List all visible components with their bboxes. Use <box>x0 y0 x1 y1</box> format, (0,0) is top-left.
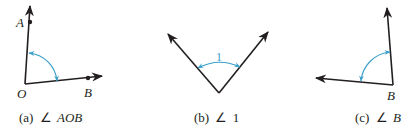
angle-symbol-icon: ∠ <box>215 110 227 125</box>
caption-a-prefix: (a) <box>19 110 33 125</box>
label-b: B <box>387 88 395 103</box>
angle-arc-b <box>361 52 390 81</box>
ray-oa <box>25 6 30 84</box>
label-o: O <box>17 86 27 101</box>
angles-diagram: A O B (a) ∠ AOB 1 (b) ∠ 1 B (c) ∠ B <box>0 0 417 133</box>
ray-ob <box>25 76 102 84</box>
caption-b-name: 1 <box>233 110 240 125</box>
caption-c-name: B <box>393 110 401 125</box>
arc-label-1: 1 <box>216 50 222 64</box>
caption-c: (c) ∠ B <box>355 110 401 125</box>
figure-c-angle-b: B (c) ∠ B <box>316 8 401 125</box>
angle-arc-aob <box>29 53 57 81</box>
caption-a: (a) ∠ AOB <box>19 110 82 125</box>
angle-symbol-icon: ∠ <box>40 110 52 125</box>
point-b-dot <box>86 76 90 80</box>
caption-a-name: AOB <box>56 110 82 125</box>
ray-left <box>316 78 393 85</box>
ray-up <box>387 8 393 85</box>
caption-b: (b) ∠ 1 <box>194 110 239 125</box>
caption-b-prefix: (b) <box>194 110 209 125</box>
figure-b-angle-1: 1 (b) ∠ 1 <box>168 32 268 125</box>
point-a-dot <box>28 20 32 24</box>
figure-a-angle-aob: A O B (a) ∠ AOB <box>15 6 102 125</box>
label-a: A <box>15 15 24 30</box>
angle-symbol-icon: ∠ <box>376 110 388 125</box>
label-b: B <box>84 85 92 100</box>
caption-c-prefix: (c) <box>355 110 369 125</box>
